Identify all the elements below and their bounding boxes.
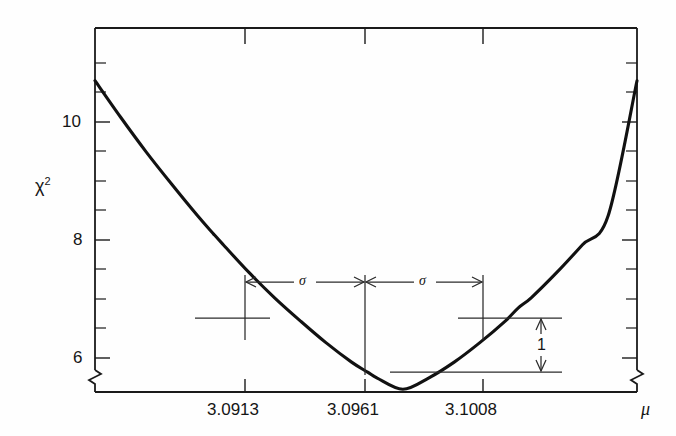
ytick-label-10: 10 xyxy=(62,113,81,130)
ytick-label-8: 8 xyxy=(73,231,82,248)
chi2-parabola-curve xyxy=(95,81,637,390)
plot-canvas xyxy=(0,0,676,436)
y-axis-title: χ2 xyxy=(35,176,51,195)
chi-squared-parabola-figure: χ2 10 8 6 3.0913 3.0961 3.1008 μ σ σ 1 xyxy=(0,0,676,436)
xtick-label-3p0913: 3.0913 xyxy=(207,401,259,418)
axis-left-break xyxy=(89,370,101,392)
y-axis-title-superscript: 2 xyxy=(44,175,50,187)
sigma-right-label: σ xyxy=(419,274,426,288)
axis-right-break xyxy=(631,370,643,392)
delta-chi2-label: 1 xyxy=(537,337,546,353)
x-axis-title: μ xyxy=(641,400,650,418)
xtick-label-3p0961: 3.0961 xyxy=(327,401,379,418)
ytick-label-6: 6 xyxy=(73,349,82,366)
sigma-left-label: σ xyxy=(299,274,306,288)
xtick-label-3p1008: 3.1008 xyxy=(445,401,497,418)
